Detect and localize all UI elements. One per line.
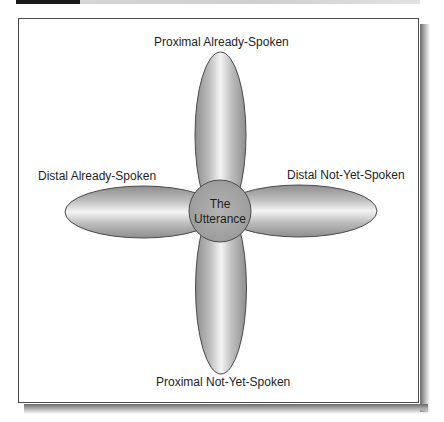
center-label-line1: The: [189, 197, 251, 212]
center-label: The Utterance: [189, 197, 251, 227]
label-proximal-already-spoken: Proximal Already-Spoken: [154, 35, 289, 49]
label-proximal-not-yet-spoken: Proximal Not-Yet-Spoken: [156, 375, 290, 389]
label-distal-not-yet-spoken: Distal Not-Yet-Spoken: [287, 168, 405, 182]
center-label-line2: Utterance: [189, 212, 251, 227]
label-distal-already-spoken: Distal Already-Spoken: [38, 169, 156, 183]
